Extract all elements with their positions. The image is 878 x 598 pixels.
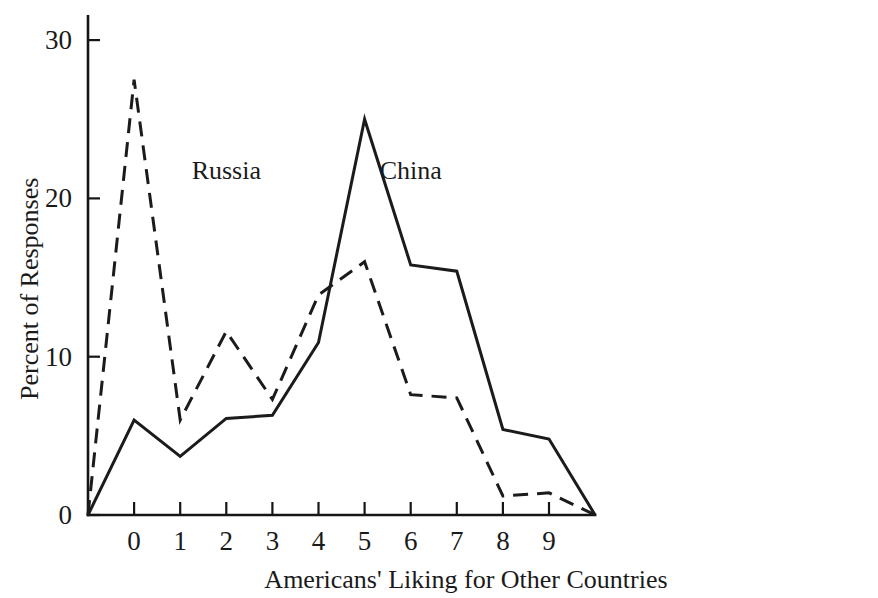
x-axis-title: Americans' Liking for Other Countries: [264, 565, 667, 594]
x-axis-tick-label: 2: [220, 526, 234, 556]
line-chart: 0102030 0123456789 RussiaChina Percent o…: [0, 0, 878, 598]
series-annotations: RussiaChina: [192, 156, 443, 185]
x-axis-tick-label: 4: [312, 526, 326, 556]
y-axis-tick-label: 0: [59, 500, 73, 530]
x-axis-tick-label: 1: [173, 526, 187, 556]
x-axis-ticks: [134, 502, 549, 515]
y-axis-tick-label: 20: [45, 183, 72, 213]
series-label-russia: Russia: [192, 156, 262, 185]
series-group: [88, 80, 595, 515]
x-axis-tick-label: 0: [127, 526, 141, 556]
plot-area: 0102030 0123456789 RussiaChina: [45, 16, 595, 556]
x-axis-tick-label: 9: [542, 526, 556, 556]
x-axis-tick-label: 7: [450, 526, 464, 556]
x-axis-tick-label: 6: [404, 526, 418, 556]
y-axis-tick-labels: 0102030: [45, 25, 72, 530]
x-axis-tick-labels: 0123456789: [127, 526, 555, 556]
series-line-china: [88, 119, 595, 515]
y-axis-title: Percent of Responses: [15, 178, 44, 400]
x-axis-tick-label: 3: [266, 526, 280, 556]
series-label-china: China: [380, 156, 443, 185]
y-axis-tick-label: 10: [45, 342, 72, 372]
series-line-russia: [88, 80, 595, 515]
y-axis-tick-label: 30: [45, 25, 72, 55]
y-axis-ticks: [88, 40, 100, 515]
x-axis-tick-label: 8: [496, 526, 510, 556]
chart-figure: 0102030 0123456789 RussiaChina Percent o…: [0, 0, 878, 598]
x-axis-tick-label: 5: [358, 526, 372, 556]
